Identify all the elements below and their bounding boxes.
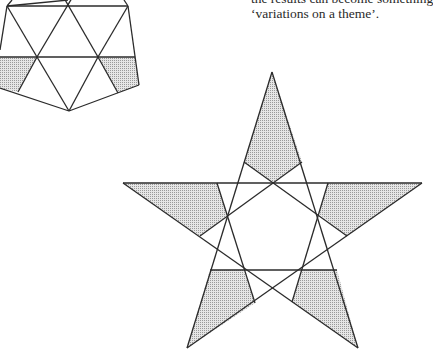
- shaded-bottom-left: [187, 269, 255, 348]
- shaded-region-left: [0, 57, 37, 92]
- star-figure: [123, 72, 422, 348]
- shaded-top: [244, 72, 302, 182]
- shaded-right: [319, 183, 422, 236]
- polygon-figure: [0, 0, 139, 111]
